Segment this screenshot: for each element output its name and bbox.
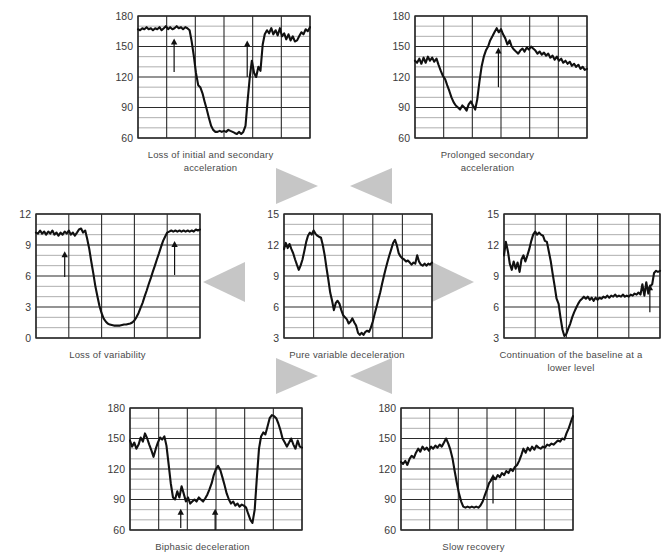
chart-caption-continuation-of-the-baseline-at-a-lower-level: Continuation of the baseline at a lower … — [478, 349, 664, 374]
y-tick-label: 9 — [273, 270, 279, 282]
y-tick-label: 0 — [25, 332, 31, 344]
chart-panel-continuation-of-the-baseline-at-a-lower-level: 3691215Continuation of the baseline at a… — [478, 210, 664, 340]
y-tick-label: 3 — [493, 332, 499, 344]
chart-caption-slow-recovery: Slow recovery — [371, 541, 576, 554]
trace-line — [284, 231, 432, 335]
y-tick-label: 60 — [398, 132, 410, 144]
chart-panel-loss-of-variability: 036912Loss of variability — [10, 210, 205, 340]
y-tick-label: 3 — [273, 332, 279, 344]
y-tick-label: 60 — [113, 524, 125, 536]
y-tick-label: 90 — [113, 493, 125, 505]
y-tick-label: 120 — [115, 71, 133, 83]
arrow-center-to-bottomright-icon — [350, 358, 392, 394]
chart-panel-prolonged-secondary-acceleration: 6090120150180Prolonged secondary acceler… — [385, 12, 590, 140]
y-tick-label: 6 — [493, 301, 499, 313]
y-tick-label: 120 — [107, 463, 125, 475]
y-tick-label: 15 — [487, 210, 499, 220]
arrow-center-to-left-icon — [203, 262, 245, 302]
up-arrow-marker-1-icon — [178, 509, 184, 528]
y-tick-label: 12 — [19, 210, 31, 220]
y-tick-label: 180 — [392, 12, 410, 22]
y-tick-label: 180 — [378, 404, 396, 414]
y-tick-label: 60 — [121, 132, 133, 144]
y-tick-label: 150 — [115, 40, 133, 52]
plot-area-prolonged-secondary-acceleration: 6090120150180 — [385, 12, 590, 148]
plot-area-loss-of-variability: 036912 — [10, 210, 205, 348]
up-arrow-marker-2-icon — [212, 509, 218, 530]
y-tick-label: 180 — [107, 404, 125, 414]
y-tick-label: 90 — [121, 101, 133, 113]
chart-panel-pure-variable-deceleration: 3691215Pure variable deceleration — [258, 210, 436, 340]
chart-caption-loss-of-initial-and-secondary-acceleration: Loss of initial and secondary accelerati… — [108, 149, 313, 174]
plot-area-slow-recovery: 6090120150180 — [371, 404, 576, 540]
y-tick-label: 150 — [107, 432, 125, 444]
chart-panel-biphasic-deceleration: 6090120150180Biphasic deceleration — [100, 404, 305, 532]
y-tick-label: 90 — [398, 101, 410, 113]
trace-line — [504, 232, 660, 336]
chart-caption-loss-of-variability: Loss of variability — [10, 349, 205, 362]
chart-panel-slow-recovery: 6090120150180Slow recovery — [371, 404, 576, 532]
plot-area-continuation-of-the-baseline-at-a-lower-level: 3691215 — [478, 210, 664, 348]
plot-area-biphasic-deceleration: 6090120150180 — [100, 404, 305, 540]
chart-caption-biphasic-deceleration: Biphasic deceleration — [100, 541, 305, 554]
y-tick-label: 6 — [273, 301, 279, 313]
y-tick-label: 12 — [487, 239, 499, 251]
y-tick-label: 3 — [25, 301, 31, 313]
y-tick-label: 12 — [267, 239, 279, 251]
y-tick-label: 120 — [378, 463, 396, 475]
y-tick-label: 150 — [392, 40, 410, 52]
chart-caption-prolonged-secondary-acceleration: Prolonged secondary acceleration — [385, 149, 590, 174]
chart-panel-loss-of-initial-and-secondary-acceleration: 6090120150180Loss of initial and seconda… — [108, 12, 313, 140]
plot-area-pure-variable-deceleration: 3691215 — [258, 210, 436, 348]
y-tick-label: 90 — [384, 493, 396, 505]
plot-area-loss-of-initial-and-secondary-acceleration: 6090120150180 — [108, 12, 313, 148]
y-tick-label: 9 — [25, 239, 31, 251]
y-tick-label: 15 — [267, 210, 279, 220]
y-tick-label: 180 — [115, 12, 133, 22]
up-arrow-marker-2-icon — [171, 241, 177, 275]
chart-caption-pure-variable-deceleration: Pure variable deceleration — [258, 349, 436, 362]
y-tick-label: 60 — [384, 524, 396, 536]
y-tick-label: 6 — [25, 270, 31, 282]
y-tick-label: 150 — [378, 432, 396, 444]
y-tick-label: 9 — [493, 270, 499, 282]
y-tick-label: 120 — [392, 71, 410, 83]
arrow-center-to-bottomleft-icon — [276, 358, 318, 394]
arrow-center-to-right-icon — [432, 262, 474, 302]
